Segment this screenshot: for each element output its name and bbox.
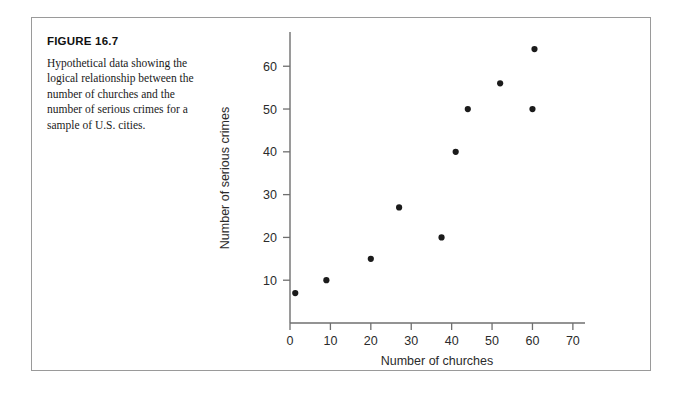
- x-tick-label: 70: [566, 334, 580, 348]
- data-point: [531, 46, 537, 52]
- data-point: [453, 149, 459, 155]
- chart-svg: 010203040506070 102030405060 Number of c…: [197, 18, 652, 372]
- x-tick-label: 20: [364, 334, 378, 348]
- data-point: [497, 80, 503, 86]
- figure-panel: FIGURE 16.7 Hypothetical data showing th…: [31, 17, 651, 371]
- data-point: [323, 277, 329, 283]
- x-tick-label: 60: [526, 334, 540, 348]
- y-tick-label: 30: [263, 188, 277, 202]
- y-tick-label: 10: [263, 274, 277, 288]
- data-point: [529, 106, 535, 112]
- x-axis-ticks: 010203040506070: [287, 323, 580, 348]
- data-point: [465, 106, 471, 112]
- x-tick-label: 30: [404, 334, 418, 348]
- y-tick-label: 50: [263, 103, 277, 117]
- data-point: [438, 234, 444, 240]
- data-point: [368, 256, 374, 262]
- x-tick-label: 10: [323, 334, 337, 348]
- data-point: [396, 204, 402, 210]
- x-axis-title: Number of churches: [381, 354, 494, 368]
- y-axis-title: Number of serious crimes: [218, 107, 232, 249]
- figure-caption-block: FIGURE 16.7 Hypothetical data showing th…: [47, 35, 207, 133]
- y-tick-label: 60: [263, 60, 277, 74]
- y-axis-ticks: 102030405060: [263, 60, 290, 288]
- x-tick-label: 0: [287, 334, 294, 348]
- y-tick-label: 40: [263, 145, 277, 159]
- figure-caption-text: Hypothetical data showing the logical re…: [47, 56, 207, 133]
- chart-axes: [290, 32, 585, 323]
- figure-number-label: FIGURE 16.7: [47, 35, 207, 47]
- y-tick-label: 20: [263, 231, 277, 245]
- scatter-chart: 010203040506070 102030405060 Number of c…: [197, 18, 652, 372]
- x-tick-label: 50: [485, 334, 499, 348]
- data-points: [292, 46, 537, 296]
- data-point: [292, 290, 298, 296]
- x-tick-label: 40: [445, 334, 459, 348]
